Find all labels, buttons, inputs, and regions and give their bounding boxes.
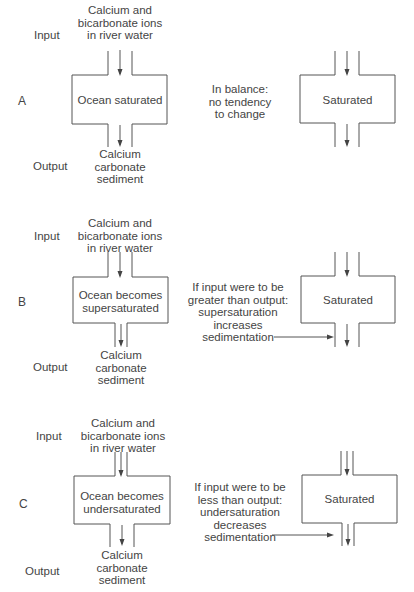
ocean-state-line-1: Ocean saturated [72, 94, 168, 107]
panel-a-saturated-label: Saturated [300, 94, 395, 107]
panel-c-output-sink: Calcium carbonate sediment [82, 549, 162, 587]
output-sink-line-3: sediment [82, 574, 162, 587]
annotation-line-2: greater than output: [183, 294, 293, 307]
input-source-line-1: Calcium and [70, 4, 170, 17]
ocean-state-line-1: Ocean becomes [73, 289, 168, 302]
annotation-line-5: sedimentation [183, 331, 293, 344]
panel-c-ocean-state: Ocean becomes undersaturated [74, 490, 170, 515]
annotation-line-5: sedimentation [186, 531, 294, 544]
panel-b-input-source: Calcium and bicarbonate ions in river wa… [70, 217, 170, 255]
panel-c-output-label: Output [25, 565, 60, 578]
annotation-line-1: If input were to be [186, 481, 294, 494]
ocean-state-line-1: Ocean becomes [74, 490, 170, 503]
annotation-line-3: undersaturation [186, 506, 294, 519]
panel-a-letter: A [18, 94, 26, 108]
panel-b-annotation: If input were to be greater than output:… [183, 281, 293, 344]
input-source-line-3: in river water [70, 242, 170, 255]
input-source-line-2: bicarbonate ions [73, 430, 173, 443]
input-source-line-1: Calcium and [70, 217, 170, 230]
panel-a-annotation: In balance: no tendency to change [200, 83, 280, 121]
panel-c-input-label: Input [36, 430, 62, 443]
panel-c-letter: C [19, 497, 28, 511]
output-sink-line-2: carbonate [81, 362, 161, 375]
panel-b-ocean-state: Ocean becomes supersaturated [73, 289, 168, 314]
annotation-line-1: If input were to be [183, 281, 293, 294]
annotation-line-3: supersaturation [183, 306, 293, 319]
ocean-calcium-balance-diagram: Input Calcium and bicarbonate ions in ri… [0, 0, 414, 592]
output-sink-line-2: carbonate [82, 562, 162, 575]
panel-c-saturated-label: Saturated [302, 493, 397, 506]
panel-b-letter: B [18, 295, 26, 309]
output-sink-line-1: Calcium [81, 349, 161, 362]
output-sink-line-1: Calcium [80, 148, 160, 161]
output-sink-line-3: sediment [81, 374, 161, 387]
annotation-line-2: no tendency [200, 96, 280, 109]
input-source-line-2: bicarbonate ions [70, 230, 170, 243]
annotation-line-4: decreases [186, 519, 294, 532]
panel-c-annotation: If input were to be less than output: un… [186, 481, 294, 544]
annotation-line-2: less than output: [186, 494, 294, 507]
input-source-line-1: Calcium and [73, 417, 173, 430]
panel-a-input-source: Calcium and bicarbonate ions in river wa… [70, 4, 170, 42]
panel-b-output-label: Output [33, 361, 68, 374]
annotation-line-1: In balance: [200, 83, 280, 96]
output-sink-line-1: Calcium [82, 549, 162, 562]
panel-a-output-label: Output [33, 160, 68, 173]
panel-b-input-label: Input [34, 230, 60, 243]
input-source-line-3: in river water [70, 29, 170, 42]
annotation-line-4: increases [183, 319, 293, 332]
panel-a-input-label: Input [34, 29, 60, 42]
panel-a-ocean-state: Ocean saturated [72, 94, 168, 107]
output-sink-line-3: sediment [80, 173, 160, 186]
output-sink-line-2: carbonate [80, 161, 160, 174]
annotation-line-3: to change [200, 108, 280, 121]
ocean-state-line-2: supersaturated [73, 302, 168, 315]
panel-b-output-sink: Calcium carbonate sediment [81, 349, 161, 387]
input-source-line-2: bicarbonate ions [70, 17, 170, 30]
ocean-state-line-2: undersaturated [74, 503, 170, 516]
panel-a-output-sink: Calcium carbonate sediment [80, 148, 160, 186]
panel-b-saturated-label: Saturated [301, 294, 395, 307]
input-source-line-3: in river water [73, 442, 173, 455]
panel-c-input-source: Calcium and bicarbonate ions in river wa… [73, 417, 173, 455]
